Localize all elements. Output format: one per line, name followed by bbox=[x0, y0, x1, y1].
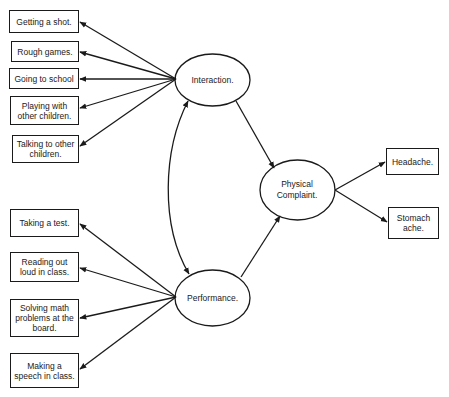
physical-complaint-node-label: Physical Complaint. bbox=[268, 175, 326, 205]
indicator-talking-to-other-children: Talking to other children. bbox=[12, 135, 79, 163]
indicator-headache: Headache. bbox=[386, 148, 439, 175]
edge-interaction-physical bbox=[236, 101, 274, 168]
edge-performance-physical bbox=[241, 216, 280, 277]
edge-physical-headache bbox=[335, 162, 385, 190]
indicator-going-to-school: Going to school bbox=[9, 68, 79, 89]
edge-interaction-performance-covariance bbox=[168, 101, 189, 274]
edge-physical-stomach bbox=[335, 190, 387, 222]
edge-interaction-ind5 bbox=[80, 79, 176, 146]
indicator-reading-out-loud: Reading out loud in class. bbox=[10, 252, 79, 282]
edge-performance-ind7 bbox=[80, 268, 176, 297]
path-diagram: Getting a shot. Rough games. Going to sc… bbox=[0, 0, 449, 397]
edge-performance-ind6 bbox=[80, 224, 176, 297]
performance-node-label: Performance. bbox=[178, 286, 247, 310]
interaction-node-label: Interaction. bbox=[180, 68, 245, 92]
edge-interaction-ind2 bbox=[80, 52, 176, 79]
indicator-stomach-ache: Stomach ache. bbox=[388, 207, 439, 239]
indicator-making-a-speech: Making a speech in class. bbox=[10, 353, 79, 388]
indicator-solving-math-problems: Solving math problems at the board. bbox=[10, 299, 79, 337]
edge-interaction-ind4 bbox=[80, 79, 176, 108]
indicator-getting-a-shot: Getting a shot. bbox=[9, 10, 79, 33]
edge-interaction-ind1 bbox=[80, 22, 176, 79]
indicator-playing-with-other-children: Playing with other children. bbox=[10, 96, 79, 125]
indicator-rough-games: Rough games. bbox=[11, 41, 79, 62]
indicator-taking-a-test: Taking a test. bbox=[10, 209, 79, 237]
